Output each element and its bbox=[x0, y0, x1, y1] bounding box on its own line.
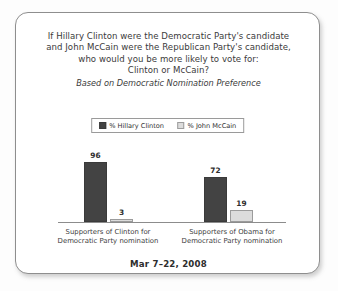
bar-chart-plot-area: 96 3 72 19 bbox=[58, 145, 286, 223]
category-label-line-2: Democratic Party nomination bbox=[176, 237, 288, 246]
screenshot-root: If Hillary Clinton were the Democratic P… bbox=[0, 0, 338, 291]
bar-value-label: 96 bbox=[84, 152, 107, 160]
bar-rect bbox=[230, 210, 253, 222]
chart-subtitle: Based on Democratic Nomination Preferenc… bbox=[26, 77, 311, 90]
category-label-line-1: Supporters of Obama for bbox=[176, 228, 288, 237]
category-label-line-1: Supporters of Clinton for bbox=[52, 228, 164, 237]
legend-label-john-mccain: % John McCain bbox=[188, 122, 237, 130]
category-label-clinton-supporters: Supporters of Clinton for Democratic Par… bbox=[52, 228, 164, 246]
bar-rect bbox=[84, 162, 107, 222]
category-label-line-2: Democratic Party nomination bbox=[52, 237, 164, 246]
legend-item-hillary-clinton[interactable]: % Hillary Clinton bbox=[99, 122, 164, 130]
category-axis-labels: Supporters of Clinton for Democratic Par… bbox=[58, 228, 286, 252]
chart-baseline-axis bbox=[58, 222, 286, 223]
title-line-2: and John McCain were the Republican Part… bbox=[26, 42, 311, 53]
title-line-3: who would you be more likely to vote for… bbox=[26, 54, 311, 65]
survey-date-range: Mar 7–22, 2008 bbox=[16, 259, 321, 269]
chart-legend: % Hillary Clinton % John McCain bbox=[91, 118, 245, 133]
legend-item-john-mccain[interactable]: % John McCain bbox=[177, 122, 236, 130]
title-line-4: Clinton or McCain? bbox=[26, 65, 311, 76]
legend-label-hillary-clinton: % Hillary Clinton bbox=[109, 122, 164, 130]
chart-title-block: If Hillary Clinton were the Democratic P… bbox=[26, 31, 311, 89]
bar-rect bbox=[204, 177, 227, 222]
bar-value-label: 19 bbox=[230, 200, 253, 208]
poll-result-card: If Hillary Clinton were the Democratic P… bbox=[15, 12, 320, 274]
category-label-obama-supporters: Supporters of Obama for Democratic Party… bbox=[176, 228, 288, 246]
legend-swatch-icon-hillary-clinton bbox=[99, 122, 106, 129]
legend-swatch-icon-john-mccain bbox=[177, 122, 184, 129]
title-line-1: If Hillary Clinton were the Democratic P… bbox=[26, 31, 311, 42]
bar-value-label: 3 bbox=[110, 209, 133, 217]
bar-value-label: 72 bbox=[204, 167, 227, 175]
